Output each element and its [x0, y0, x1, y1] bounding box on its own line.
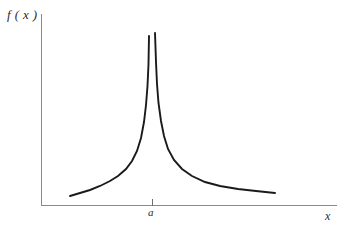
x-axis-tick-label-a: a: [148, 207, 154, 218]
y-axis-label: f ( x ): [7, 8, 38, 21]
curve-left-branch: [70, 36, 149, 196]
plot-canvas: [0, 0, 344, 236]
curve-right-branch: [155, 33, 275, 193]
chart-figure: f ( x ) x a: [0, 0, 344, 236]
x-axis-label: x: [325, 210, 331, 222]
